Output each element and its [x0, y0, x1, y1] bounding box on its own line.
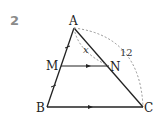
side-ac: [74, 28, 143, 107]
point-label-n: N: [110, 60, 121, 74]
length-label-12: 12: [120, 47, 133, 58]
parallel-arrow-icon: [86, 64, 91, 68]
length-label-x: x: [83, 44, 89, 55]
point-label-m: M: [46, 59, 58, 73]
triangle-diagram: A M N B C x 12: [0, 0, 166, 126]
point-label-b: B: [36, 101, 45, 115]
parallel-arrow-icon: [88, 105, 93, 109]
point-label-c: C: [144, 101, 153, 115]
point-label-a: A: [68, 14, 78, 28]
